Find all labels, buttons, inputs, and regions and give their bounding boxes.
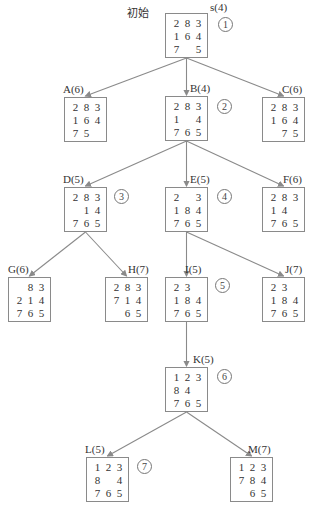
tile xyxy=(182,113,193,126)
node-label-C: C(6) xyxy=(282,83,302,95)
tile: 7 xyxy=(171,307,182,320)
node-label-I: I(5) xyxy=(185,263,202,275)
tile: 2 xyxy=(268,101,279,114)
start-label: 初始 xyxy=(127,4,149,20)
tile: 5 xyxy=(133,307,144,320)
node-label-K: K(5) xyxy=(193,353,214,365)
tile: 2 xyxy=(111,281,122,294)
tile: 8 xyxy=(92,474,103,487)
tile: 2 xyxy=(171,191,182,204)
tile: 8 xyxy=(81,101,92,114)
tile: 1 xyxy=(81,204,92,217)
puzzle-node-L: 12384765 xyxy=(86,457,129,502)
tile xyxy=(268,127,279,140)
puzzle-grid: 12384765 xyxy=(92,461,125,500)
node-label-B: B(4) xyxy=(190,82,210,94)
tile: 6 xyxy=(81,217,92,230)
puzzle-grid: 28371465 xyxy=(111,281,144,320)
tile: 3 xyxy=(193,371,204,384)
tile: 8 xyxy=(81,191,92,204)
node-label-G: G(6) xyxy=(8,263,29,275)
puzzle-node-I: 23184765 xyxy=(165,277,208,322)
tile xyxy=(290,281,301,294)
puzzle-grid: 23184765 xyxy=(268,281,301,320)
tile: 4 xyxy=(193,294,204,307)
tile: 8 xyxy=(279,101,290,114)
tile: 5 xyxy=(114,487,125,500)
puzzle-grid: 28316475 xyxy=(171,17,204,56)
tile: 1 xyxy=(171,113,182,126)
puzzle-node-C: 28316475 xyxy=(262,97,305,142)
expansion-order-badge: 7 xyxy=(137,459,152,474)
tile: 8 xyxy=(247,474,258,487)
tile: 7 xyxy=(171,43,182,56)
tile: 5 xyxy=(193,126,204,139)
tile: 4 xyxy=(133,294,144,307)
tile: 7 xyxy=(70,217,81,230)
tile: 2 xyxy=(103,461,114,474)
tile: 1 xyxy=(25,294,36,307)
node-label-F: F(6) xyxy=(283,173,302,185)
tile: 4 xyxy=(193,113,204,126)
edge-K-L xyxy=(108,412,187,456)
tile: 6 xyxy=(122,307,133,320)
tile: 2 xyxy=(70,101,81,114)
puzzle-grid: 28314765 xyxy=(70,191,103,230)
tile xyxy=(70,204,81,217)
edge-D-G xyxy=(30,232,86,276)
tile: 4 xyxy=(193,204,204,217)
tile xyxy=(103,474,114,487)
tile: 3 xyxy=(182,281,193,294)
tile: 6 xyxy=(182,307,193,320)
expansion-order-badge: 6 xyxy=(217,369,232,384)
puzzle-node-H: 28371465 xyxy=(105,277,148,322)
puzzle-node-B: 28314765 xyxy=(165,96,208,141)
tile: 4 xyxy=(114,474,125,487)
tree-edges xyxy=(0,0,313,508)
tile: 7 xyxy=(14,307,25,320)
puzzle-grid: 23184765 xyxy=(171,281,204,320)
node-label-s: s(4) xyxy=(210,1,227,13)
tile: 7 xyxy=(92,487,103,500)
expansion-order-badge: 4 xyxy=(217,189,232,204)
node-label-J: J(7) xyxy=(285,263,302,275)
tile: 4 xyxy=(193,30,204,43)
tile: 1 xyxy=(171,294,182,307)
tile xyxy=(193,384,204,397)
puzzle-node-E: 23184765 xyxy=(165,187,208,232)
tile: 4 xyxy=(279,204,290,217)
tile: 5 xyxy=(92,217,103,230)
tile: 6 xyxy=(81,114,92,127)
tile: 7 xyxy=(279,127,290,140)
node-label-A: A(6) xyxy=(63,83,84,95)
tile: 3 xyxy=(92,101,103,114)
tile: 2 xyxy=(14,294,25,307)
edge-s-A xyxy=(86,58,187,96)
tile: 6 xyxy=(279,114,290,127)
tile xyxy=(14,281,25,294)
puzzle-grid: 83214765 xyxy=(14,281,47,320)
tile: 3 xyxy=(279,281,290,294)
tile: 3 xyxy=(36,281,47,294)
tile xyxy=(193,281,204,294)
tile: 3 xyxy=(193,17,204,30)
puzzle-grid: 23184765 xyxy=(171,191,204,230)
tile: 2 xyxy=(70,191,81,204)
puzzle-grid: 28316475 xyxy=(268,101,301,140)
tile: 1 xyxy=(171,204,182,217)
tile xyxy=(111,307,122,320)
puzzle-node-A: 28316475 xyxy=(64,97,107,142)
tile: 4 xyxy=(290,294,301,307)
puzzle-node-G: 83214765 xyxy=(8,277,51,322)
puzzle-node-D: 28314765 xyxy=(64,187,107,232)
puzzle-grid: 12378465 xyxy=(236,461,269,500)
tile: 3 xyxy=(133,281,144,294)
tile: 3 xyxy=(193,191,204,204)
puzzle-node-F: 28314765 xyxy=(262,187,305,232)
tile: 4 xyxy=(92,204,103,217)
puzzle-node-s: 28316475 xyxy=(165,13,208,58)
tile: 7 xyxy=(268,217,279,230)
tile: 6 xyxy=(103,487,114,500)
node-label-E: E(5) xyxy=(190,173,210,185)
tile: 7 xyxy=(171,397,182,410)
